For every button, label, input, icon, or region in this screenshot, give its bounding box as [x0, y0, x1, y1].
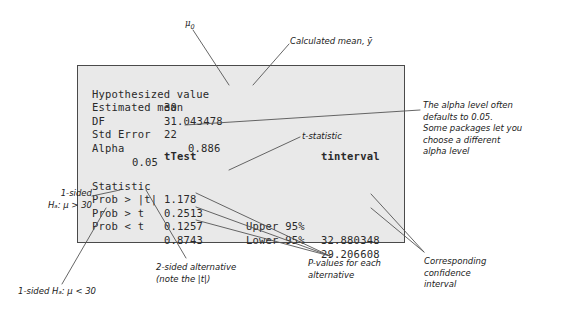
interval-label: Upper 95% [246, 220, 305, 234]
annotation-two-sided: 2-sided alternative (note the |t|) [156, 262, 236, 285]
test-value: 0.1257 [164, 220, 203, 234]
test-value: 0.2513 [164, 207, 203, 221]
test-value: 1.178 [164, 193, 197, 207]
interval-value: 32.880348 [321, 234, 380, 248]
annotation-one-sided-greater: 1-sided Hₐ: μ > 30 [14, 188, 92, 211]
annotation-mu-zero: μ0 [185, 18, 195, 33]
test-label: Prob < t [92, 220, 144, 234]
ttest-column-header: tTest [164, 150, 197, 162]
annotated-statistics-output-figure: Hypothesized value 30 Estimated mean 31.… [0, 0, 565, 315]
annotation-one-sided-less: 1-sided Hₐ: μ < 30 [18, 286, 96, 298]
annotation-calculated-mean: Calculated mean, ȳ [290, 36, 372, 48]
summary-statistics-block: Hypothesized value 30 Estimated mean 31.… [78, 74, 404, 146]
test-value: 0.8743 [164, 234, 203, 248]
test-row-prob-less-t: Prob < t 0.8743 [78, 207, 130, 261]
interval-label: Lower 95% [246, 234, 305, 248]
annotation-p-values: P-values for each alternative [308, 258, 381, 281]
annotation-confidence-interval: Corresponding confidence interval [424, 256, 486, 291]
tinterval-column-header: tinterval [321, 150, 380, 162]
annotation-t-statistic: t-statistic [302, 131, 342, 143]
statistics-output-panel: Hypothesized value 30 Estimated mean 31.… [77, 65, 405, 243]
summary-value: 0.05 [132, 156, 158, 170]
annotation-alpha-level-note: The alpha level often defaults to 0.05. … [423, 100, 522, 158]
summary-label: Alpha [92, 142, 125, 156]
